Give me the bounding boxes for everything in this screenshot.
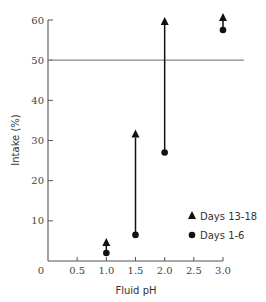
- chart: 00.51.01.52.02.53.0102030405060 Fluid pH…: [0, 0, 266, 302]
- x-tick-label: 0.5: [69, 265, 85, 276]
- legend-label-days-13-18: Days 13-18: [200, 211, 257, 222]
- x-tick-label: 1.0: [98, 265, 114, 276]
- circle-marker: [103, 250, 110, 257]
- x-tick-label: 1.5: [128, 265, 144, 276]
- legend-label-days-1-6: Days 1-6: [200, 230, 244, 241]
- x-axis-title: Fluid pH: [115, 285, 156, 296]
- triangle-marker-icon: [188, 211, 196, 219]
- circle-marker-icon: [189, 232, 196, 239]
- y-tick-label: 30: [31, 135, 44, 146]
- y-tick-label: 40: [31, 95, 44, 106]
- triangle-marker: [102, 238, 110, 246]
- triangle-marker: [132, 129, 140, 137]
- legend: Days 13-18 Days 1-6: [188, 211, 257, 241]
- circle-marker: [161, 149, 168, 156]
- y-tick-label: 60: [31, 15, 44, 26]
- y-axis-title: Intake (%): [10, 114, 21, 166]
- x-tick-label: 2.5: [186, 265, 202, 276]
- triangle-marker: [161, 17, 169, 25]
- y-tick-label: 10: [31, 215, 44, 226]
- circle-marker: [132, 232, 139, 239]
- y-tick-label: 20: [31, 175, 44, 186]
- triangle-marker: [219, 13, 227, 21]
- circle-marker: [220, 27, 227, 34]
- x-tick-label: 2.0: [157, 265, 173, 276]
- y-tick-label: 50: [31, 55, 44, 66]
- x-tick-label: 0: [38, 265, 44, 276]
- x-tick-label: 3.0: [215, 265, 231, 276]
